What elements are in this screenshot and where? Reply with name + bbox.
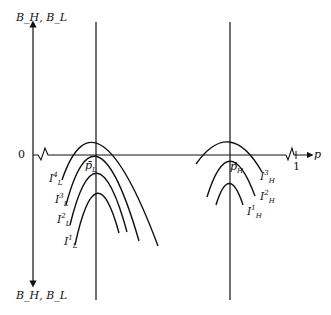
label-IL4: I4L: [49, 172, 62, 187]
curve-IL4: [62, 142, 158, 246]
curve-IH3: [196, 142, 262, 172]
x-tick-label: 1: [293, 161, 300, 172]
x-axis-label: p: [314, 149, 321, 160]
diagram-canvas: [0, 0, 331, 315]
origin-label: 0: [18, 149, 25, 160]
label-IH2: I2H: [260, 190, 275, 205]
label-pL: p̄L: [85, 160, 97, 174]
label-IH3: I3H: [260, 170, 275, 185]
label-IL1: I1L: [64, 235, 77, 250]
y-axis-label-top: B_H, B_L: [16, 12, 67, 23]
curve-IL1: [75, 193, 119, 245]
label-IL3: I3L: [55, 193, 68, 208]
x-axis-right-break: [286, 148, 310, 160]
y-axis-label-bottom: B_H, B_L: [16, 290, 67, 301]
label-IL2: I2L: [57, 213, 70, 228]
label-IH1: I1H: [247, 205, 262, 220]
label-pH: p̄H: [230, 161, 243, 175]
